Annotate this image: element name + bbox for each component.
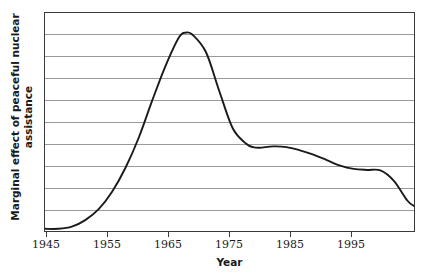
x-axis-tick bbox=[290, 232, 291, 237]
y-axis-label-line1: Marginal effect of peaceful nuclear bbox=[9, 13, 21, 220]
x-axis-tick bbox=[168, 232, 169, 237]
y-axis-label: Marginal effect of peaceful nuclear assi… bbox=[0, 0, 44, 233]
data-series-line bbox=[45, 13, 414, 231]
x-axis-tick bbox=[46, 232, 47, 237]
x-axis-tick-label: 1955 bbox=[93, 238, 121, 251]
x-axis-tick-label: 1945 bbox=[32, 238, 60, 251]
x-axis-tick bbox=[107, 232, 108, 237]
chart-screenshot: Marginal effect of peaceful nuclear assi… bbox=[0, 0, 429, 277]
y-axis-label-line2: assistance bbox=[22, 13, 35, 220]
x-axis-tick-label: 1985 bbox=[276, 238, 304, 251]
x-axis-tick-label: 1995 bbox=[337, 238, 365, 251]
x-axis-tick bbox=[229, 232, 230, 237]
y-axis-label-text: Marginal effect of peaceful nuclear assi… bbox=[9, 13, 35, 220]
plot-area bbox=[44, 12, 415, 232]
x-axis-tick-label: 1975 bbox=[215, 238, 243, 251]
x-axis-label: Year bbox=[44, 256, 415, 268]
x-axis-tick-label: 1965 bbox=[154, 238, 182, 251]
x-axis-tick bbox=[351, 232, 352, 237]
